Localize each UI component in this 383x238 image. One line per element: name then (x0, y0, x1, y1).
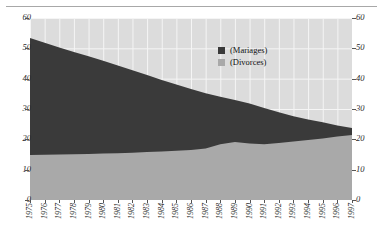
y-tick-mark (25, 48, 29, 49)
y-tick-mark-right (352, 139, 356, 140)
legend-swatch-divorces (218, 59, 225, 66)
x-tick-label: 1987 (202, 203, 210, 219)
legend-item: (Divorces) (218, 58, 267, 67)
y-tick-label: 20 (0, 134, 31, 142)
x-tick-label: 1977 (55, 203, 63, 219)
y-tick-label: 10 (0, 165, 31, 173)
y-tick-label-right: 40 (356, 74, 365, 82)
x-tick-label: 1985 (172, 203, 180, 219)
x-tick-label: 1988 (216, 203, 224, 219)
x-tick-label: 1994 (304, 203, 312, 219)
y-tick-label-right: 50 (356, 43, 365, 51)
x-tick-label: 1995 (319, 203, 327, 219)
x-tick-label: 1990 (246, 203, 254, 219)
plot-area (30, 18, 352, 200)
x-tick-label: 1980 (99, 203, 107, 219)
x-tick-label: 1981 (114, 203, 122, 219)
y-tick-label-right: 20 (356, 134, 365, 142)
y-tick-label: 60 (0, 13, 31, 21)
y-tick-mark-right (352, 170, 356, 171)
y-tick-label-right: 30 (356, 104, 365, 112)
x-tick-label: 1997 (348, 203, 356, 219)
y-tick-mark (25, 18, 29, 19)
x-tick-label: 1989 (231, 203, 239, 219)
x-tick-label: 1992 (275, 203, 283, 219)
y-tick-mark-right (352, 48, 356, 49)
x-tick-label: 1976 (41, 203, 49, 219)
y-tick-label: 40 (0, 74, 31, 82)
y-tick-mark (25, 79, 29, 80)
legend-swatch-mariages (218, 47, 225, 54)
y-tick-mark-right (352, 79, 356, 80)
y-tick-mark-right (352, 18, 356, 19)
y-tick-label: 50 (0, 43, 31, 51)
x-tick-label: 1986 (187, 203, 195, 219)
y-tick-mark (25, 200, 29, 201)
x-tick-label: 1991 (260, 203, 268, 219)
y-tick-label: 30 (0, 104, 31, 112)
chart-legend: (Mariages) (Divorces) (218, 46, 267, 70)
x-tick-label: 1983 (143, 203, 151, 219)
y-tick-mark-right (352, 109, 356, 110)
x-tick-label: 1996 (333, 203, 341, 219)
y-tick-label-right: 10 (356, 165, 365, 173)
y-tick-mark (25, 109, 29, 110)
x-tick-label: 1993 (289, 203, 297, 219)
legend-label-divorces: (Divorces) (230, 58, 266, 67)
x-tick-label: 1984 (158, 203, 166, 219)
legend-label-mariages: (Mariages) (230, 46, 267, 55)
y-tick-mark (25, 139, 29, 140)
x-tick-label: 1978 (70, 203, 78, 219)
area-series-svg (30, 18, 352, 200)
x-tick-label: 1975 (26, 203, 34, 219)
y-tick-label: 0 (0, 195, 31, 203)
y-tick-label-right: 0 (356, 195, 360, 203)
y-tick-mark (25, 170, 29, 171)
header-rule (6, 6, 377, 7)
y-tick-label-right: 60 (356, 13, 365, 21)
chart-figure: 0102030405060 0102030405060 197519761977… (0, 0, 383, 238)
x-tick-label: 1982 (128, 203, 136, 219)
x-tick-label: 1979 (85, 203, 93, 219)
legend-item: (Mariages) (218, 46, 267, 55)
